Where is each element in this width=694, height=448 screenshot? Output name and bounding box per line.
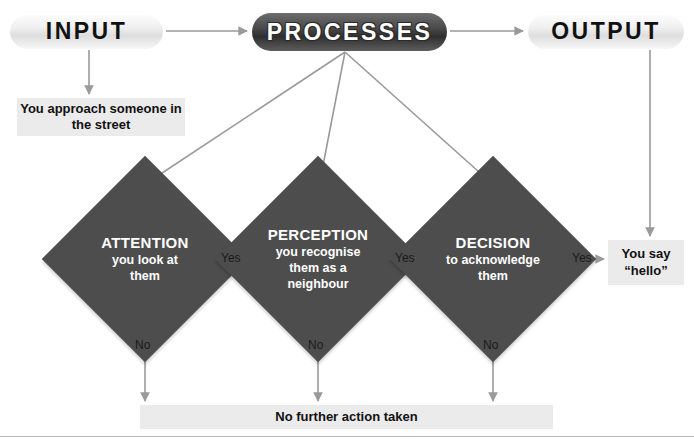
- stage-box-processes-label: PROCESSES: [267, 19, 433, 46]
- diamond-sub-attention-line1: you look at: [72, 253, 218, 268]
- stage-box-output-label: OUTPUT: [551, 18, 661, 45]
- bottom-divider: [0, 436, 694, 437]
- diamond-sub-attention-line2: them: [72, 269, 218, 284]
- note-no-further-action: No further action taken: [140, 405, 553, 429]
- decision-diamond-attention[interactable]: ATTENTION you look at them: [72, 186, 218, 332]
- note-say-hello-line2: “hello”: [624, 263, 667, 278]
- diamond-sub-decision-line1: to acknowledge: [420, 253, 566, 268]
- stage-box-processes[interactable]: PROCESSES: [252, 13, 447, 51]
- stage-box-input-label: INPUT: [46, 18, 128, 45]
- edge-processes-to-decision: [345, 52, 489, 181]
- decision-diamond-decision[interactable]: DECISION to acknowledge them: [420, 186, 566, 332]
- diamond-sub-decision-line2: them: [420, 269, 566, 284]
- note-say-hello: You say “hello”: [608, 240, 684, 285]
- note-say-hello-text: You say “hello”: [622, 246, 671, 279]
- decision-diamond-perception[interactable]: PERCEPTION you recognise them as a neigh…: [245, 186, 391, 332]
- diamond-text: PERCEPTION you recognise them as a neigh…: [245, 226, 391, 292]
- note-input-detail: You approach someone in the street: [17, 98, 185, 136]
- note-no-further-action-text: No further action taken: [275, 409, 417, 425]
- diamond-title-perception: PERCEPTION: [245, 226, 391, 244]
- edge-label-no-perception: No: [308, 338, 323, 352]
- flowchart-canvas: INPUT PROCESSES OUTPUT You approach some…: [0, 0, 694, 448]
- stage-box-output[interactable]: OUTPUT: [528, 14, 684, 49]
- edge-label-yes-attention: Yes: [221, 251, 241, 265]
- diamond-title-attention: ATTENTION: [72, 234, 218, 252]
- diamond-title-decision: DECISION: [420, 234, 566, 252]
- edge-label-yes-decision: Yes: [572, 251, 592, 265]
- stage-box-input[interactable]: INPUT: [10, 14, 163, 49]
- diamond-text: DECISION to acknowledge them: [420, 234, 566, 284]
- diamond-sub-perception-line3: neighbour: [245, 277, 391, 292]
- diamond-sub-perception-line2: them as a: [245, 261, 391, 276]
- note-say-hello-line1: You say: [622, 246, 671, 261]
- edge-label-no-decision: No: [483, 338, 498, 352]
- edge-label-yes-perception: Yes: [395, 251, 415, 265]
- note-input-detail-text: You approach someone in the street: [17, 101, 185, 134]
- diamond-sub-perception-line1: you recognise: [245, 245, 391, 260]
- edge-label-no-attention: No: [135, 338, 150, 352]
- diamond-text: ATTENTION you look at them: [72, 234, 218, 284]
